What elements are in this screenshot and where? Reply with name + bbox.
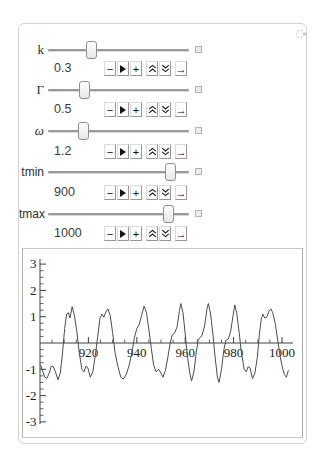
slider-track-gamma[interactable] bbox=[48, 89, 189, 91]
slider-row-k: k bbox=[19, 41, 306, 59]
value-field-omega[interactable]: 1.2 bbox=[54, 144, 100, 159]
play-icon bbox=[120, 189, 126, 197]
double-chevron-up-icon bbox=[148, 64, 157, 73]
slower-button[interactable] bbox=[159, 102, 171, 117]
play-icon bbox=[120, 106, 126, 114]
double-chevron-up-icon bbox=[148, 229, 157, 238]
faster-button[interactable] bbox=[146, 102, 158, 117]
decrement-button[interactable]: − bbox=[104, 61, 116, 76]
settings-row-omega: 1.2 − + → bbox=[19, 144, 306, 159]
decrement-button[interactable]: − bbox=[104, 144, 116, 159]
plot-output-frame: 9209409609801000-3-2-1123 bbox=[22, 248, 303, 438]
direction-button[interactable]: → bbox=[175, 102, 187, 117]
play-button[interactable] bbox=[117, 226, 129, 241]
slower-button[interactable] bbox=[159, 61, 171, 76]
play-icon bbox=[120, 65, 126, 73]
slider-thumb-tmax[interactable] bbox=[163, 205, 174, 223]
slider-track-omega[interactable] bbox=[48, 130, 189, 132]
duffing-time-series-plot: 9209409609801000-3-2-1123 bbox=[23, 249, 302, 437]
slider-row-gamma: Γ bbox=[19, 81, 306, 99]
slower-button[interactable] bbox=[159, 226, 171, 241]
settings-row-tmin: 900 − + → bbox=[19, 185, 306, 200]
increment-button[interactable]: + bbox=[130, 61, 142, 76]
increment-button[interactable]: + bbox=[130, 226, 142, 241]
increment-button[interactable]: + bbox=[130, 102, 142, 117]
play-button[interactable] bbox=[117, 185, 129, 200]
slower-button[interactable] bbox=[159, 185, 171, 200]
manipulate-menu-icon[interactable] bbox=[295, 28, 307, 40]
value-field-tmin[interactable]: 900 bbox=[54, 185, 100, 200]
settings-row-k: 0.3 − + → bbox=[19, 61, 306, 76]
slider-toggle-k[interactable] bbox=[195, 46, 202, 53]
screenshot-root: k 0.3 − + → Γ 0.5 bbox=[0, 0, 325, 465]
slider-toggle-tmax[interactable] bbox=[195, 210, 202, 217]
slower-button[interactable] bbox=[159, 144, 171, 159]
play-icon bbox=[120, 148, 126, 156]
faster-button[interactable] bbox=[146, 185, 158, 200]
play-button[interactable] bbox=[117, 144, 129, 159]
control-label-gamma: Γ bbox=[19, 82, 44, 98]
direction-button[interactable]: → bbox=[175, 226, 187, 241]
double-chevron-up-icon bbox=[148, 188, 157, 197]
direction-button[interactable]: → bbox=[175, 185, 187, 200]
value-field-gamma[interactable]: 0.5 bbox=[54, 102, 100, 117]
faster-button[interactable] bbox=[146, 144, 158, 159]
svg-text:940: 940 bbox=[127, 345, 147, 360]
slider-toggle-tmin[interactable] bbox=[195, 168, 202, 175]
decrement-button[interactable]: − bbox=[104, 185, 116, 200]
settings-row-gamma: 0.5 − + → bbox=[19, 102, 306, 117]
svg-text:2: 2 bbox=[30, 283, 37, 298]
control-label-k: k bbox=[19, 42, 44, 58]
decrement-button[interactable]: − bbox=[104, 226, 116, 241]
slider-track-k[interactable] bbox=[48, 49, 189, 51]
increment-button[interactable]: + bbox=[130, 144, 142, 159]
stepper-group-k: − + → bbox=[104, 61, 187, 76]
direction-button[interactable]: → bbox=[175, 144, 187, 159]
svg-text:-3: -3 bbox=[26, 414, 37, 429]
slider-toggle-gamma[interactable] bbox=[195, 86, 202, 93]
slider-thumb-k[interactable] bbox=[86, 41, 97, 59]
stepper-group-omega: − + → bbox=[104, 144, 187, 159]
double-chevron-down-icon bbox=[161, 147, 170, 156]
play-icon bbox=[120, 230, 126, 238]
faster-button[interactable] bbox=[146, 61, 158, 76]
manipulate-panel: k 0.3 − + → Γ 0.5 bbox=[18, 23, 307, 444]
stepper-group-tmax: − + → bbox=[104, 226, 187, 241]
svg-text:3: 3 bbox=[30, 256, 37, 271]
control-label-tmax: tmax bbox=[19, 206, 44, 222]
double-chevron-down-icon bbox=[161, 229, 170, 238]
increment-button[interactable]: + bbox=[130, 185, 142, 200]
double-chevron-up-icon bbox=[148, 147, 157, 156]
svg-text:960: 960 bbox=[175, 345, 195, 360]
double-chevron-up-icon bbox=[148, 105, 157, 114]
value-field-k[interactable]: 0.3 bbox=[54, 61, 100, 76]
double-chevron-down-icon bbox=[161, 64, 170, 73]
slider-thumb-omega[interactable] bbox=[78, 122, 89, 140]
slider-thumb-tmin[interactable] bbox=[165, 163, 176, 181]
slider-row-omega: ω bbox=[19, 122, 306, 140]
stepper-group-tmin: − + → bbox=[104, 185, 187, 200]
svg-text:1: 1 bbox=[30, 309, 37, 324]
value-field-tmax[interactable]: 1000 bbox=[54, 226, 100, 241]
slider-thumb-gamma[interactable] bbox=[79, 81, 90, 99]
svg-text:-1: -1 bbox=[26, 362, 37, 377]
slider-row-tmin: tmin bbox=[19, 163, 306, 181]
stepper-group-gamma: − + → bbox=[104, 102, 187, 117]
slider-row-tmax: tmax bbox=[19, 205, 306, 223]
settings-row-tmax: 1000 − + → bbox=[19, 226, 306, 241]
control-label-omega: ω bbox=[19, 123, 44, 139]
double-chevron-down-icon bbox=[161, 188, 170, 197]
play-button[interactable] bbox=[117, 102, 129, 117]
control-label-tmin: tmin bbox=[19, 164, 44, 180]
play-button[interactable] bbox=[117, 61, 129, 76]
double-chevron-down-icon bbox=[161, 105, 170, 114]
faster-button[interactable] bbox=[146, 226, 158, 241]
slider-toggle-omega[interactable] bbox=[195, 127, 202, 134]
svg-text:-2: -2 bbox=[26, 388, 37, 403]
svg-text:1000: 1000 bbox=[269, 345, 295, 360]
decrement-button[interactable]: − bbox=[104, 102, 116, 117]
direction-button[interactable]: → bbox=[175, 61, 187, 76]
